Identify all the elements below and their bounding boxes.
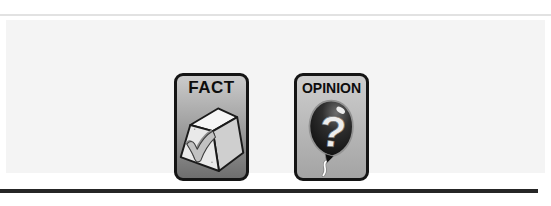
- content-panel: FACT OPINION: [6, 20, 545, 173]
- svg-text:?: ?: [317, 107, 348, 158]
- bottom-divider: [0, 189, 538, 193]
- opinion-question-balloon-icon: ?: [301, 98, 363, 178]
- fact-card-label: FACT: [188, 79, 234, 97]
- page: FACT OPINION: [0, 0, 551, 206]
- fact-card: FACT: [174, 73, 249, 181]
- top-divider: [0, 14, 551, 16]
- fact-checkmark-stone-icon: [179, 98, 245, 178]
- opinion-card-label: OPINION: [302, 79, 361, 97]
- opinion-card: OPINION ?: [294, 73, 369, 181]
